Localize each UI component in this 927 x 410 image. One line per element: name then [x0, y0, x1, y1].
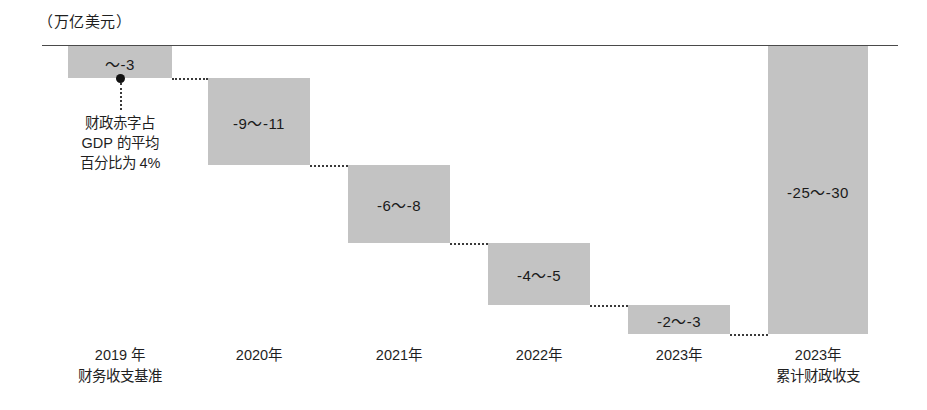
annotation-line-3: 百分比为 4% — [80, 155, 161, 171]
category-label-2019: 2019 年 财务收支基准 — [40, 345, 200, 387]
category-label-line1: 2019 年 — [95, 347, 145, 363]
connector-2022-to-2023 — [590, 305, 628, 307]
bar-value-label: 〜-3 — [68, 53, 172, 74]
bar-value-label: -6〜-8 — [348, 194, 450, 215]
bar-value-label: -9〜-11 — [208, 112, 310, 133]
category-label-2021: 2021年 — [319, 345, 479, 366]
annotation-deficit-gdp: 财政赤字占 GDP 的平均 百分比为 4% — [40, 113, 200, 173]
connector-2021-to-2022 — [450, 243, 488, 245]
bar-2023-cumulative-total: -25〜-30 — [768, 46, 868, 334]
category-label-line1: 2023年 — [795, 347, 841, 363]
bar-2020: -9〜-11 — [208, 78, 310, 165]
bar-value-label: -25〜-30 — [768, 181, 868, 202]
bar-value-label: -2〜-3 — [628, 310, 730, 331]
bar-value-label: -4〜-5 — [488, 264, 590, 285]
category-label-line1: 2022年 — [516, 347, 562, 363]
category-label-line1: 2020年 — [236, 347, 282, 363]
annotation-line-2: GDP 的平均 — [81, 135, 158, 151]
category-label-line1: 2021年 — [376, 347, 422, 363]
category-label-line2: 累计财政收支 — [738, 366, 898, 387]
category-label-2023: 2023年 — [599, 345, 759, 366]
category-label-2023-cumulative: 2023年 累计财政收支 — [738, 345, 898, 387]
waterfall-chart: （万亿美元） 〜-3 -9〜-11 -6〜-8 -4〜-5 -2〜-3 -25〜… — [0, 0, 927, 410]
category-label-2022: 2022年 — [459, 345, 619, 366]
category-label-line2: 财务收支基准 — [40, 366, 200, 387]
bar-2021: -6〜-8 — [348, 165, 450, 243]
category-label-2020: 2020年 — [179, 345, 339, 366]
annotation-line-1: 财政赤字占 — [85, 115, 155, 131]
connector-2020-to-2021 — [310, 165, 348, 167]
connector-2023-to-total — [730, 334, 768, 336]
bar-2022: -4〜-5 — [488, 243, 590, 305]
connector-2019-to-2020 — [172, 78, 208, 80]
annotation-leader-line — [120, 83, 122, 110]
unit-caption: （万亿美元） — [38, 10, 131, 31]
annotation-marker-dot — [116, 74, 125, 83]
category-label-line1: 2023年 — [656, 347, 702, 363]
bar-2023: -2〜-3 — [628, 305, 730, 334]
